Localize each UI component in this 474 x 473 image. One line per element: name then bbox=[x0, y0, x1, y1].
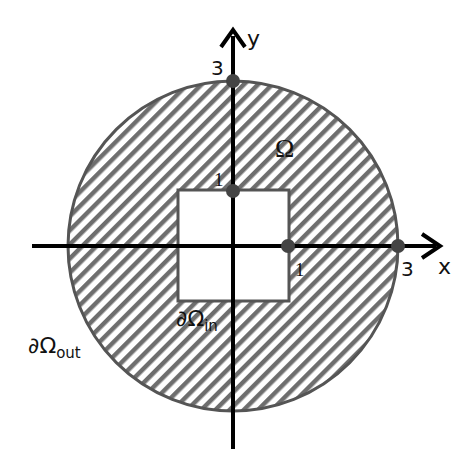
outer-boundary-label-main: ∂Ω bbox=[28, 333, 56, 358]
region-omega-label: Ω bbox=[275, 134, 294, 163]
point-x3 bbox=[391, 239, 405, 253]
tick-x-inner: 1 bbox=[295, 259, 305, 280]
x-axis-label: x bbox=[438, 254, 451, 279]
point-y1 bbox=[226, 184, 240, 198]
inner-boundary-label-sub: in bbox=[204, 317, 218, 335]
tick-y-outer: 3 bbox=[211, 56, 224, 80]
domain-diagram: y x 3 1 1 3 Ω ∂Ωout ∂Ωin bbox=[0, 0, 474, 473]
outer-boundary-label-sub: out bbox=[56, 344, 81, 362]
point-x1 bbox=[281, 239, 295, 253]
point-y3 bbox=[226, 74, 240, 88]
outer-boundary-label: ∂Ωout bbox=[28, 333, 81, 362]
inner-boundary-label-main: ∂Ω bbox=[176, 306, 204, 331]
y-axis-label: y bbox=[247, 26, 260, 51]
tick-x-outer: 3 bbox=[401, 257, 414, 281]
tick-y-inner: 1 bbox=[214, 169, 224, 190]
